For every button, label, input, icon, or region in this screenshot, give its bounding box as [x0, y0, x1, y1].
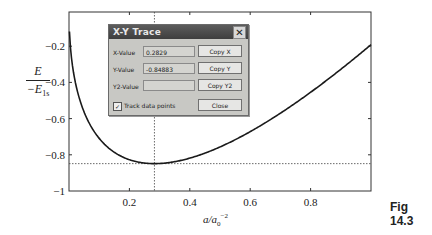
- copy-x-button[interactable]: Copy X: [198, 45, 242, 57]
- y-axis-label: E −E1s: [20, 64, 56, 98]
- y-tick-label: −0.6: [45, 113, 65, 125]
- x-value-label: X-Value: [113, 49, 141, 56]
- track-data-points-label: Track data points: [124, 102, 175, 109]
- y-value-label: Y-Value: [113, 66, 141, 73]
- copy-y2-button[interactable]: Copy Y2: [198, 79, 242, 91]
- track-data-points-checkbox[interactable]: ✓Track data points: [113, 102, 175, 111]
- y-label-numerator: E: [26, 64, 50, 81]
- x-tick-label: 0.8: [304, 196, 318, 208]
- figure-caption: Fig 14.3: [390, 200, 432, 228]
- y2-value-label: Y2-Value: [113, 83, 141, 90]
- x-tick-label: 0.4: [183, 196, 197, 208]
- y-tick-label: −0.8: [45, 149, 65, 161]
- close-icon[interactable]: ✕: [233, 26, 246, 39]
- y-tick-label: −1: [53, 185, 65, 197]
- x-axis-label: a/a0−2: [203, 212, 228, 228]
- dialog-title: X-Y Trace: [113, 27, 161, 37]
- copy-y-button[interactable]: Copy Y: [198, 62, 242, 74]
- y-tick-label: −0.2: [45, 40, 65, 52]
- x-tick-label: 0.2: [123, 196, 137, 208]
- close-button[interactable]: Close: [198, 99, 242, 111]
- dialog-title-bar[interactable]: X-Y Trace ✕: [109, 25, 248, 39]
- x-value-field[interactable]: 0.2829: [143, 46, 195, 57]
- x-tick-label: 0.6: [243, 196, 257, 208]
- y-label-denominator: −E1s: [20, 81, 56, 98]
- y2-value-field[interactable]: [143, 80, 195, 91]
- xy-trace-dialog[interactable]: X-Y Trace ✕ X-Value 0.2829 Copy X Y-Valu…: [108, 24, 249, 116]
- checkbox-check-icon[interactable]: ✓: [113, 102, 122, 111]
- y-value-field[interactable]: -0.84883: [143, 63, 195, 74]
